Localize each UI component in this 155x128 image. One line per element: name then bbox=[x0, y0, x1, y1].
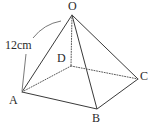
edge-D-C-hidden bbox=[71, 66, 138, 79]
edge-O-D-hidden bbox=[71, 15, 72, 66]
edge-A-B bbox=[22, 92, 97, 109]
vertex-label-C: C bbox=[140, 70, 148, 82]
edge-B-C bbox=[97, 79, 138, 109]
edge-O-C bbox=[72, 15, 138, 79]
vertex-label-B: B bbox=[92, 112, 100, 124]
measure-leader-line bbox=[22, 54, 26, 91]
measure-leader-arc bbox=[33, 21, 61, 38]
measurement-label-12cm: 12cm bbox=[5, 39, 32, 51]
pyramid-figure: O A B C D 12cm bbox=[0, 0, 155, 128]
edge-A-D-hidden bbox=[22, 66, 71, 92]
edge-O-B bbox=[72, 15, 97, 109]
vertex-label-A: A bbox=[9, 94, 18, 106]
vertex-label-O: O bbox=[68, 0, 77, 12]
vertex-label-D: D bbox=[57, 52, 66, 64]
pyramid-drawing bbox=[0, 0, 155, 128]
